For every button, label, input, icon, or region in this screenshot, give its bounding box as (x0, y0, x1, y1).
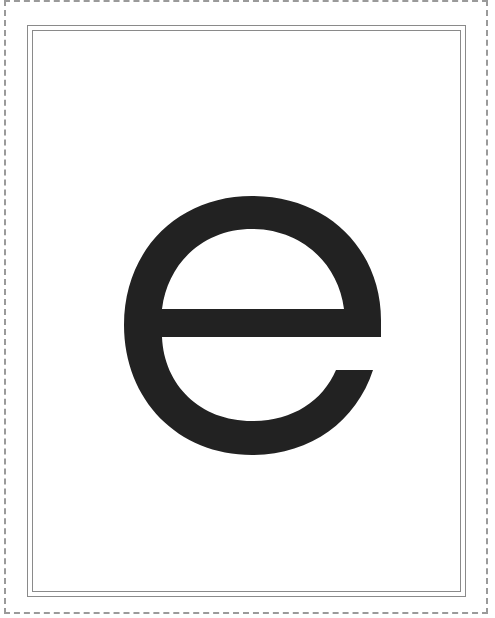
letter-e-glyph (0, 0, 495, 618)
